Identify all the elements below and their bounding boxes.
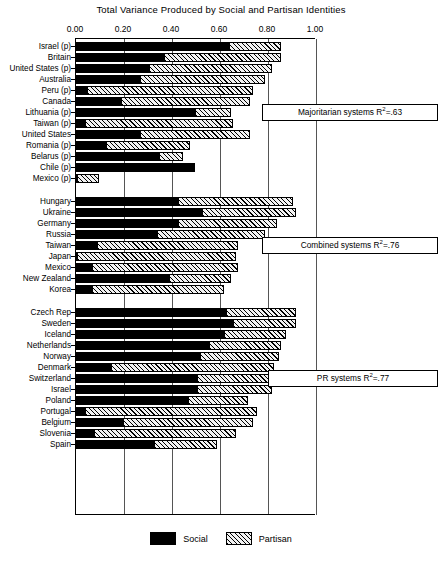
plot-bottom-axis <box>75 514 315 515</box>
category-label: Iceland <box>0 329 71 340</box>
bar-row: Israel (p) <box>0 41 442 52</box>
bar-segment-social <box>75 341 209 350</box>
bar-segment-social <box>75 86 87 95</box>
bar-segment-partisan <box>123 418 253 427</box>
group-annotation-pr-systems: PR systems R2=.77 <box>268 370 438 387</box>
category-label: Japan <box>0 251 71 262</box>
category-label: Portugal <box>0 406 71 417</box>
bar-segment-social <box>75 197 178 206</box>
bar-segment-partisan <box>77 252 235 261</box>
bar-row: Belgium <box>0 417 442 428</box>
bar-segment-partisan <box>149 64 271 73</box>
bar-segment-partisan <box>85 407 258 416</box>
bar-segment-social <box>75 374 197 383</box>
category-label: United States (p) <box>0 63 71 74</box>
category-label: Belarus (p) <box>0 151 71 162</box>
bar-row: Ukraine <box>0 207 442 218</box>
category-label: Denmark <box>0 362 71 373</box>
x-tick-label-0.40: 0.40 <box>154 24 188 34</box>
x-tick-label-0.00: 0.00 <box>58 24 92 34</box>
category-label: Israel <box>0 384 71 395</box>
bar-segment-social <box>75 230 157 239</box>
bar-segment-social <box>75 418 123 427</box>
bar-segment-social <box>75 263 92 272</box>
annotation-value: =.63 <box>386 107 402 117</box>
bar-segment-partisan <box>193 163 195 172</box>
bar-segment-partisan <box>226 308 296 317</box>
bar-segment-partisan <box>94 429 236 438</box>
category-label: Germany <box>0 218 71 229</box>
bar-segment-social <box>75 53 164 62</box>
bar-segment-partisan <box>157 230 265 239</box>
category-label: Czech Rep <box>0 307 71 318</box>
bar-segment-partisan <box>77 174 99 183</box>
category-label: Russia <box>0 229 71 240</box>
bar-segment-partisan <box>92 285 224 294</box>
annotation-text: Majoritarian systems R <box>298 107 382 117</box>
bar-segment-social <box>75 285 92 294</box>
bar-segment-social <box>75 108 195 117</box>
category-label: Slovenia <box>0 428 71 439</box>
category-label: Britain <box>0 52 71 63</box>
x-tick-label-0.60: 0.60 <box>202 24 236 34</box>
bar-segment-social <box>75 274 169 283</box>
x-tick-label-0.20: 0.20 <box>106 24 140 34</box>
bar-segment-social <box>75 407 85 416</box>
annotation-text: Combined systems R <box>301 240 380 250</box>
category-label: Switzerland <box>0 373 71 384</box>
category-label: Sweden <box>0 318 71 329</box>
bar-row: Hungary <box>0 196 442 207</box>
category-label: Taiwan (p) <box>0 118 71 129</box>
bar-segment-partisan <box>178 197 293 206</box>
bar-segment-partisan <box>154 440 216 449</box>
bar-row: Germany <box>0 218 442 229</box>
legend-swatch-partisan <box>226 532 252 545</box>
chart-legend: SocialPartisan <box>0 532 442 545</box>
category-label: Romania (p) <box>0 140 71 151</box>
bar-segment-social <box>75 163 193 172</box>
category-label: Belgium <box>0 417 71 428</box>
bar-segment-social <box>75 208 202 217</box>
bar-segment-partisan <box>195 108 231 117</box>
bar-segment-partisan <box>87 86 253 95</box>
legend-entry: Social <box>150 532 208 545</box>
bar-row: Portugal <box>0 406 442 417</box>
bar-row: Netherlands <box>0 340 442 351</box>
bar-row: Mexico (p) <box>0 173 442 184</box>
bar-row: Spain <box>0 439 442 450</box>
group-annotation-majoritarian-systems: Majoritarian systems R2=.63 <box>262 104 438 121</box>
category-label: Taiwan <box>0 240 71 251</box>
category-label: Australia <box>0 74 71 85</box>
bar-segment-partisan <box>202 208 296 217</box>
category-label: Mexico (p) <box>0 173 71 184</box>
bar-segment-social <box>75 42 229 51</box>
bar-segment-partisan <box>233 319 295 328</box>
x-tick-label-0.80: 0.80 <box>250 24 284 34</box>
bar-segment-partisan <box>111 363 274 372</box>
legend-swatch-social <box>150 532 176 545</box>
x-tick-label-1.00: 1.00 <box>298 24 332 34</box>
chart-root: Total Variance Produced by Social and Pa… <box>0 0 442 564</box>
legend-label: Social <box>183 534 208 544</box>
bar-row: Peru (p) <box>0 85 442 96</box>
bar-segment-social <box>75 352 200 361</box>
bar-segment-social <box>75 330 224 339</box>
bar-segment-social <box>75 440 154 449</box>
bar-segment-partisan <box>140 130 250 139</box>
bar-segment-social <box>75 363 111 372</box>
bar-segment-partisan <box>200 352 279 361</box>
bar-segment-partisan <box>224 330 286 339</box>
bar-row: Chile (p) <box>0 162 442 173</box>
bar-segment-social <box>75 396 188 405</box>
annotation-value: =.76 <box>383 240 399 250</box>
bar-row: Czech Rep <box>0 307 442 318</box>
bar-segment-social <box>75 97 121 106</box>
category-label: Spain <box>0 439 71 450</box>
category-label: Netherlands <box>0 340 71 351</box>
chart-title: Total Variance Produced by Social and Pa… <box>0 4 442 15</box>
bar-row: Norway <box>0 351 442 362</box>
bar-segment-social <box>75 64 149 73</box>
category-label: Canada <box>0 96 71 107</box>
bar-segment-partisan <box>188 396 248 405</box>
bar-row: Iceland <box>0 329 442 340</box>
